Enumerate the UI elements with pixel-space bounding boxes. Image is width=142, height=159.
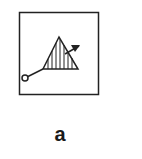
symbol-frame bbox=[20, 13, 99, 95]
probe-line-icon bbox=[22, 69, 43, 81]
hatched-triangle-icon bbox=[43, 37, 78, 69]
triangle-probe-symbol-icon bbox=[0, 0, 142, 110]
figure-label: a bbox=[0, 122, 120, 146]
